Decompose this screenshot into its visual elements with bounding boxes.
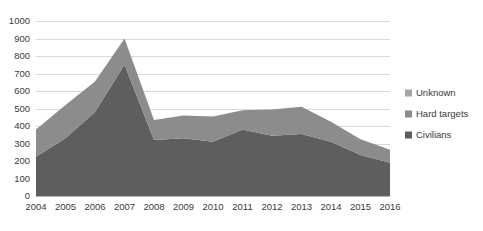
x-axis-tick-label: 2009 <box>173 201 194 212</box>
y-axis-tick-labels: 01002003004005006007008009001000 <box>9 15 30 201</box>
y-axis-tick-label: 300 <box>14 138 30 149</box>
legend-swatch <box>405 132 412 139</box>
x-axis-tick-label: 2011 <box>232 201 252 212</box>
y-axis-tick-label: 600 <box>14 85 30 96</box>
chart-canvas: 01002003004005006007008009001000 2004200… <box>0 0 483 231</box>
x-axis-tick-label: 2007 <box>114 201 135 212</box>
y-axis-tick-label: 900 <box>14 33 30 44</box>
x-axis-tick-labels: 2004200520062007200820092010201120122013… <box>25 201 400 212</box>
x-axis-tick-label: 2012 <box>261 201 282 212</box>
y-axis-tick-label: 200 <box>14 155 30 166</box>
legend-label: Unknown <box>416 87 456 98</box>
x-axis-tick-label: 2010 <box>202 201 223 212</box>
x-axis-tick-label: 2005 <box>55 201 76 212</box>
x-axis-tick-label: 2015 <box>350 201 371 212</box>
y-axis-tick-label: 0 <box>25 190 30 201</box>
x-axis-tick-label: 2006 <box>84 201 105 212</box>
x-axis-tick-label: 2014 <box>320 201 341 212</box>
chart-legend: UnknownHard targetsCivilians <box>405 87 469 140</box>
x-axis-tick-label: 2004 <box>25 201 46 212</box>
y-axis-tick-label: 500 <box>14 103 30 114</box>
area-series-group <box>36 39 390 197</box>
y-axis-tick-label: 1000 <box>9 15 30 26</box>
x-axis-tick-label: 2016 <box>379 201 400 212</box>
y-axis-tick-label: 700 <box>14 68 30 79</box>
legend-label: Hard targets <box>416 108 469 119</box>
x-axis-tick-label: 2008 <box>143 201 164 212</box>
y-axis-tick-label: 100 <box>14 173 30 184</box>
legend-label: Civilians <box>416 129 452 140</box>
legend-swatch <box>405 111 412 118</box>
legend-swatch <box>405 90 412 97</box>
x-axis-tick-label: 2013 <box>291 201 312 212</box>
y-axis-tick-label: 400 <box>14 120 30 131</box>
stacked-area-chart: 01002003004005006007008009001000 2004200… <box>0 0 483 231</box>
y-axis-tick-label: 800 <box>14 50 30 61</box>
